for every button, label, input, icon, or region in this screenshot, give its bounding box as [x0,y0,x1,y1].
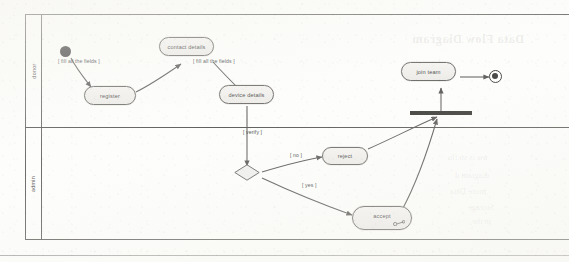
action-node-join-team-label: join team [416,69,440,75]
guard-label-yes: [ yes ] [302,182,317,188]
action-node-register-label: register [100,93,120,99]
action-node-register[interactable]: register [84,86,136,105]
decision-node[interactable] [234,164,260,181]
guard-label-no: [ no ] [290,152,302,158]
action-node-reject[interactable]: reject [322,147,368,165]
scanned-page: Data Flow Diagram ow is so flo diagram d… [0,0,569,262]
action-node-reject-label: reject [338,153,353,159]
action-node-accept[interactable]: accept [352,206,412,230]
action-node-join-team[interactable]: join team [401,62,456,81]
guard-label-verify: [ verify ] [243,129,262,135]
edge-reject-to-join-bar [368,117,437,149]
action-node-device-details-label: device details [229,92,265,98]
action-node-accept-label: accept [373,213,390,219]
edges-layer [0,0,569,262]
initial-node [60,46,71,57]
edge-decision-to-reject [262,157,322,172]
key-icon [393,220,405,226]
action-node-contact-details-label: contact details [167,44,205,50]
edge-accept-to-join-bar [402,119,437,210]
edge-register-to-contact-details [136,64,181,92]
action-node-contact-details[interactable]: contact details [159,37,214,56]
join-bar [410,111,472,115]
guard-label-fill-fields-1: [ fill all the fields ] [58,58,100,64]
guard-label-fill-fields-2: [ fill all the fields ] [193,58,235,64]
final-node [489,70,502,83]
action-node-device-details[interactable]: device details [219,85,274,104]
